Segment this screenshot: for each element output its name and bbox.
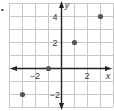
- y-axis-label: y: [64, 0, 70, 10]
- y-axis-down-arrow-icon: [59, 103, 64, 110]
- data-point: [72, 40, 77, 45]
- x-axis-label: x: [105, 71, 111, 81]
- scatter-plot: −2242−2xy: [0, 0, 114, 111]
- y-tick-label: 2: [52, 38, 57, 48]
- x-tick-label: 2: [84, 71, 89, 81]
- y-tick-label: −2: [50, 90, 60, 100]
- data-point: [20, 92, 25, 97]
- y-axis-up-arrow-icon: [59, 1, 64, 8]
- x-axis-left-arrow-icon: [10, 66, 17, 71]
- x-tick-label: −2: [30, 71, 40, 81]
- data-point: [46, 66, 51, 71]
- data-point: [98, 14, 103, 19]
- y-tick-label: 4: [52, 12, 57, 22]
